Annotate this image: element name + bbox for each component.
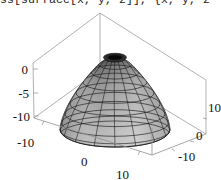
x-tick-0: 0 [81, 154, 88, 169]
plot-svg: 0 -5 -10 -10 0 10 10 0 -10 [0, 6, 221, 180]
x-tick-m10: -10 [17, 135, 34, 150]
x-tick-10: 10 [116, 167, 129, 180]
surface-plot-3d: 0 -5 -10 -10 0 10 10 0 -10 [0, 6, 221, 180]
z-tick-m10: -10 [13, 109, 30, 124]
z-axis-tick-labels: 0 -5 -10 [13, 62, 30, 124]
y-tick-10: 10 [208, 100, 221, 115]
surface-mesh [60, 53, 171, 149]
screenshot-root: ss[surface[x, y, z]], {x, y, z [0, 0, 221, 180]
z-tick-m5: -5 [18, 86, 29, 101]
z-tick-0: 0 [22, 62, 29, 77]
y-tick-0: 0 [196, 128, 203, 143]
y-axis-tick-labels: 10 0 -10 [178, 100, 221, 164]
y-tick-m10: -10 [178, 149, 195, 164]
